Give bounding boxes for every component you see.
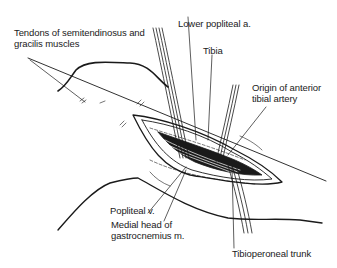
label-medial-head: Medial head of gastrocnemius m. [111,219,184,241]
label-lower-popliteal: Lower popliteal a. [178,18,251,29]
leader-tendons [30,60,85,102]
label-origin-line2: tibial artery [252,93,321,104]
leader-tibia [208,55,212,140]
label-tendons-line1: Tendons of semitendinosus and [14,27,145,38]
leader-lower-popliteal [188,17,196,140]
upper-leg-contour [58,62,168,91]
label-origin-anterior: Origin of anterior tibial artery [252,82,321,104]
surgical-diagram: Tendons of semitendinosus and gracilis m… [0,0,337,268]
label-origin-line1: Origin of anterior [252,82,321,93]
label-tibioperoneal: Tibioperoneal trunk [232,248,311,259]
label-popliteal-v: Popliteal v. [110,205,155,216]
label-medial-line1: Medial head of [111,219,184,230]
label-medial-line2: gastrocnemius m. [111,230,184,241]
label-tibia: Tibia [203,45,223,56]
leader-origin-anterior [228,107,266,155]
retractor-lower [228,165,244,233]
label-tendons-line2: gracilis muscles [14,38,145,49]
leader-medial-head [164,170,186,221]
label-tendons: Tendons of semitendinosus and gracilis m… [14,27,145,49]
lower-leg-contour [58,178,322,230]
